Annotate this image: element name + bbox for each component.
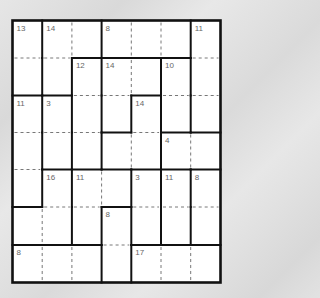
cage-sum-clue: 11 xyxy=(76,173,85,182)
grid-cell[interactable] xyxy=(161,245,191,283)
cage-sum-clue: 11 xyxy=(195,24,204,33)
cage-sum-clue: 14 xyxy=(135,99,144,108)
grid-cell[interactable] xyxy=(42,58,72,96)
cage-sum-clue: 12 xyxy=(76,61,85,70)
grid-cell[interactable] xyxy=(13,58,43,96)
grid-cell[interactable] xyxy=(13,207,43,245)
grid-cell[interactable] xyxy=(13,133,43,170)
cage-sum-clue: 11 xyxy=(17,99,26,108)
grid-cell[interactable] xyxy=(191,133,221,170)
cage-sum-clue: 3 xyxy=(46,99,51,108)
cage-sum-clue: 14 xyxy=(46,24,55,33)
cage-sum-clue: 11 xyxy=(165,173,174,182)
grid-cell[interactable] xyxy=(72,96,102,133)
grid-cell[interactable] xyxy=(131,207,161,245)
grid-cell[interactable] xyxy=(191,207,221,245)
grid-cell[interactable] xyxy=(161,21,191,59)
cage-sum-clue: 4 xyxy=(165,136,170,145)
cage-sum-clue: 13 xyxy=(17,24,26,33)
cage-sum-clue: 17 xyxy=(135,248,144,257)
grid-cell[interactable] xyxy=(161,207,191,245)
grid-cell[interactable] xyxy=(42,245,72,283)
grid-cell[interactable] xyxy=(131,58,161,96)
cage-sum-clue: 3 xyxy=(135,173,140,182)
grid-cell[interactable] xyxy=(102,96,132,133)
cage-sum-clue: 8 xyxy=(106,210,111,219)
cage-sum-clue: 8 xyxy=(17,248,22,257)
cage-sum-clue: 16 xyxy=(46,173,55,182)
grid-cell[interactable] xyxy=(191,96,221,133)
cell-layer[interactable] xyxy=(13,21,221,283)
grid-cell[interactable] xyxy=(191,58,221,96)
cage-sum-clue: 8 xyxy=(106,24,111,33)
cage-sum-clue: 10 xyxy=(165,61,174,70)
cage-sum-clue: 14 xyxy=(106,61,115,70)
grid-cell[interactable] xyxy=(72,133,102,170)
grid-cell[interactable] xyxy=(42,133,72,170)
grid-cell[interactable] xyxy=(72,21,102,59)
puzzle-board: 1314811121410113144161131188817 xyxy=(0,0,235,298)
grid-cell[interactable] xyxy=(72,207,102,245)
grid-cell[interactable] xyxy=(191,245,221,283)
grid-cell[interactable] xyxy=(161,96,191,133)
grid-cell[interactable] xyxy=(72,245,102,283)
grid-cell[interactable] xyxy=(13,170,43,208)
grid-cell[interactable] xyxy=(102,245,132,283)
grid-cell[interactable] xyxy=(42,207,72,245)
grid-cell[interactable] xyxy=(131,133,161,170)
cage-sum-clue: 8 xyxy=(195,173,200,182)
grid-cell[interactable] xyxy=(102,133,132,170)
grid-cell[interactable] xyxy=(102,170,132,208)
grid-cell[interactable] xyxy=(131,21,161,59)
